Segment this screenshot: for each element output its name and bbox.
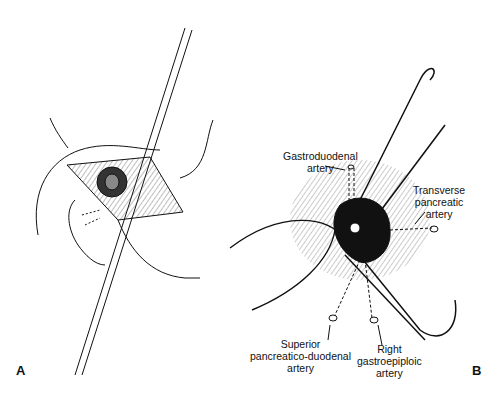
- panel-label-a: A: [16, 363, 25, 378]
- label-line: artery: [413, 208, 465, 220]
- label-gastroduodenal-artery: Gastroduodenal artery: [283, 150, 358, 174]
- label-superior-pancreaticoduodenal-artery: Superior pancreatico-duodenal artery: [250, 338, 351, 374]
- label-right-gastroepiploic-artery: Right gastroepiploic artery: [357, 343, 422, 379]
- label-line: pancreatic: [413, 196, 465, 208]
- label-line: gastroepiploic: [357, 355, 422, 367]
- label-transverse-pancreatic-artery: Transverse pancreatic artery: [413, 184, 465, 220]
- label-line: Transverse: [413, 184, 465, 196]
- label-line: artery: [250, 362, 351, 374]
- label-line: Gastroduodenal: [283, 150, 358, 162]
- panel-label-b: B: [472, 363, 481, 378]
- label-line: artery: [357, 367, 422, 379]
- panel-a-drawing: [36, 28, 213, 375]
- label-line: pancreatico-duodenal: [250, 350, 351, 362]
- label-line: artery: [283, 162, 358, 174]
- label-line: Superior: [250, 338, 351, 350]
- label-line: Right: [357, 343, 422, 355]
